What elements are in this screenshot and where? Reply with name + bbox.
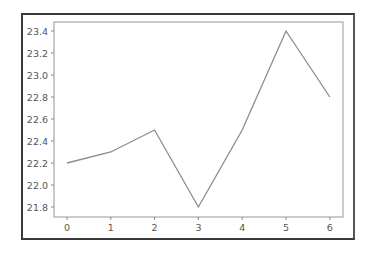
y-tick-label: 23.2 — [27, 48, 48, 59]
y-tick-label: 21.8 — [27, 202, 48, 213]
x-tick-label: 0 — [64, 222, 70, 233]
x-tick-label: 5 — [283, 222, 289, 233]
y-tick-label: 23.0 — [27, 70, 48, 81]
x-tick-label: 6 — [327, 222, 333, 233]
data-line — [67, 31, 330, 207]
x-tick-label: 1 — [108, 222, 114, 233]
y-tick-label: 22.0 — [27, 180, 48, 191]
x-tick-label: 2 — [152, 222, 158, 233]
y-tick-label: 22.2 — [27, 158, 48, 169]
y-tick-label: 22.8 — [27, 92, 48, 103]
x-tick-label: 4 — [239, 222, 245, 233]
y-tick-label: 23.4 — [27, 26, 48, 37]
y-tick-labels: 21.8 22.0 22.2 22.4 22.6 22.8 23.0 23.2 … — [27, 26, 48, 213]
y-tick-label: 22.6 — [27, 114, 48, 125]
x-tick-labels: 0 1 2 3 4 5 6 — [64, 222, 333, 233]
x-tick-label: 3 — [195, 222, 201, 233]
line-chart: 21.8 22.0 22.2 22.4 22.6 22.8 23.0 23.2 … — [0, 0, 370, 253]
y-tick-label: 22.4 — [27, 136, 48, 147]
